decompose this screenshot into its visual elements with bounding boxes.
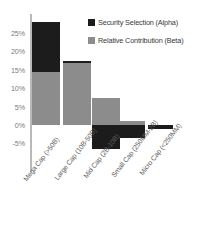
legend-swatch-icon xyxy=(88,37,95,44)
y-tick-label: 25% xyxy=(11,29,25,38)
legend-item-beta[interactable]: Relative Contribution (Beta) xyxy=(88,36,206,45)
legend-item-label: Security Selection (Alpha) xyxy=(98,18,178,27)
y-tick-label: 0% xyxy=(15,121,25,130)
y-tick-label: -5% xyxy=(13,139,25,148)
legend-item-label: Relative Contribution (Beta) xyxy=(98,36,183,45)
legend-swatch-icon xyxy=(88,19,95,26)
bar-segment-alpha[interactable] xyxy=(63,61,91,63)
y-axis-tick-labels: 25% 20% 15% 10% 5% 0% -5% xyxy=(0,0,28,249)
y-tick-label: 15% xyxy=(11,65,25,74)
y-tick-label: 20% xyxy=(11,47,25,56)
bar-segment-beta[interactable] xyxy=(63,63,91,125)
bar-segment-beta[interactable] xyxy=(92,98,120,125)
y-tick-label: 10% xyxy=(11,84,25,93)
stacked-bar-chart: 25% 20% 15% 10% 5% 0% -5% Security Selec… xyxy=(0,0,207,249)
bar-segment-beta[interactable] xyxy=(32,72,60,125)
bar-segment-alpha[interactable] xyxy=(32,22,60,72)
y-tick-label: 5% xyxy=(15,102,25,111)
chart-legend: Security Selection (Alpha) Relative Cont… xyxy=(88,18,206,54)
legend-item-alpha[interactable]: Security Selection (Alpha) xyxy=(88,18,206,27)
